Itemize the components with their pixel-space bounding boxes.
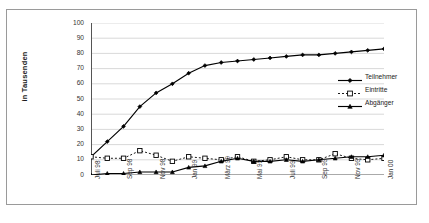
x-tick-label-4: März 99 bbox=[224, 156, 231, 179]
data-point-eintritte bbox=[203, 156, 207, 160]
y-tick-label-50: 50 bbox=[62, 96, 84, 103]
y-tick-label-90: 90 bbox=[62, 35, 84, 42]
data-point-teilnehmer bbox=[284, 55, 288, 59]
data-point-teilnehmer bbox=[333, 52, 337, 56]
x-tick-label-0: Juli 98 bbox=[94, 161, 101, 179]
data-point-eintritte bbox=[170, 159, 174, 163]
data-point-eintritte bbox=[186, 155, 190, 159]
data-point-teilnehmer bbox=[366, 48, 370, 52]
data-point-teilnehmer bbox=[382, 47, 384, 51]
data-point-eintritte bbox=[333, 152, 337, 156]
chart-plot-area: in Tausenden 0102030405060708090100 Juli… bbox=[7, 10, 418, 206]
y-tick-label-10: 10 bbox=[62, 156, 84, 163]
y-axis-tick-labels: 0102030405060708090100 bbox=[62, 10, 84, 206]
data-point-teilnehmer bbox=[268, 56, 272, 60]
x-tick-label-1: Sep 98 bbox=[126, 159, 133, 179]
data-point-teilnehmer bbox=[252, 58, 256, 62]
legend-item-eintritte[interactable]: Eintritte bbox=[337, 85, 415, 96]
data-point-eintritte bbox=[91, 155, 93, 159]
x-tick-label-9: Jan 00 bbox=[387, 160, 394, 179]
x-tick-label-5: Mai 99 bbox=[256, 160, 263, 179]
legend-label-eintritte: Eintritte bbox=[365, 87, 387, 94]
y-tick-label-60: 60 bbox=[62, 80, 84, 87]
chart-legend: TeilnehmerEintritteAbgänger bbox=[337, 72, 415, 111]
data-point-eintritte bbox=[105, 156, 109, 160]
data-point-eintritte bbox=[138, 148, 142, 152]
y-axis-title: in Tausenden bbox=[20, 34, 29, 120]
data-point-teilnehmer bbox=[203, 64, 207, 68]
data-point-eintritte bbox=[154, 153, 158, 157]
x-tick-label-7: Sep 99 bbox=[321, 159, 328, 179]
legend-marker-square-icon bbox=[337, 85, 363, 96]
x-axis-tick-labels: Juli 98Sep 98Nov 98Jan 99März 99Mai 99Ju… bbox=[91, 178, 384, 206]
x-tick-label-8: Nov 99 bbox=[354, 159, 361, 179]
y-tick-label-70: 70 bbox=[62, 65, 84, 72]
y-tick-label-40: 40 bbox=[62, 111, 84, 118]
y-tick-label-30: 30 bbox=[62, 126, 84, 133]
data-point-teilnehmer bbox=[219, 61, 223, 65]
y-tick-label-0: 0 bbox=[62, 172, 84, 179]
legend-label-abgänger: Abgänger bbox=[365, 100, 394, 107]
y-tick-label-20: 20 bbox=[62, 141, 84, 148]
x-tick-label-2: Nov 98 bbox=[159, 159, 166, 179]
x-tick-label-6: Juli 99 bbox=[289, 161, 296, 179]
y-tick-label-80: 80 bbox=[62, 50, 84, 57]
chart-frame: in Tausenden 0102030405060708090100 Juli… bbox=[6, 9, 417, 205]
legend-marker-triangle-icon bbox=[337, 98, 363, 109]
x-tick-label-3: Jan 99 bbox=[191, 160, 198, 179]
y-tick-label-100: 100 bbox=[62, 20, 84, 27]
legend-item-abgänger[interactable]: Abgänger bbox=[337, 98, 415, 109]
data-point-teilnehmer bbox=[236, 59, 240, 63]
legend-label-teilnehmer: Teilnehmer bbox=[365, 74, 397, 81]
legend-marker-diamond-icon bbox=[337, 72, 363, 83]
legend-item-teilnehmer[interactable]: Teilnehmer bbox=[337, 72, 415, 83]
